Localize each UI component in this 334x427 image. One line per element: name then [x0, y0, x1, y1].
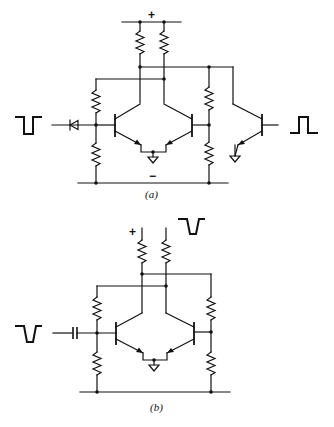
- panel-a: +: [15, 8, 318, 201]
- junction-dot: [164, 284, 168, 288]
- transistor-q2: [166, 313, 211, 353]
- left-bias-divider: [93, 286, 101, 392]
- collector-resistor-left: [136, 22, 144, 103]
- output-pulse-icon: [290, 117, 318, 133]
- junction-dot: [138, 65, 142, 69]
- transistor-q1: [116, 313, 143, 353]
- positive-supply-label: +: [148, 8, 155, 22]
- junction-dot: [162, 77, 166, 81]
- input-pulse-icon: [15, 326, 42, 342]
- positive-supply-label: +: [129, 225, 136, 239]
- left-bias-divider: [92, 79, 100, 183]
- junction-dot: [140, 272, 144, 276]
- transistor-q2: [164, 104, 209, 145]
- ground-icon: [230, 145, 240, 162]
- ground-icon: [149, 360, 159, 371]
- negative-supply-label: −: [149, 169, 156, 183]
- collector-resistor-right: [162, 228, 170, 313]
- ground-icon: [148, 152, 158, 163]
- caption-a: (a): [145, 188, 158, 201]
- collector-resistor-right: [160, 22, 168, 103]
- caption-b: (b): [150, 401, 163, 414]
- collector-resistor-left: [138, 228, 146, 313]
- panel-b: +: [15, 219, 230, 414]
- input-pulse-icon: [15, 117, 42, 134]
- output-pulse-icon: [178, 219, 205, 234]
- transistor-q1: [96, 104, 141, 145]
- circuit-figure: +: [0, 0, 334, 427]
- transistor-q3: [233, 67, 278, 156]
